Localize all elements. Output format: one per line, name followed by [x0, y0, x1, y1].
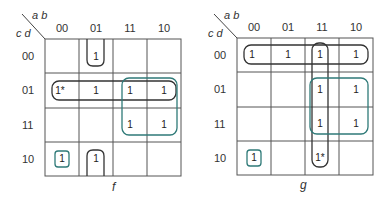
col-header: 11: [305, 21, 339, 33]
cell: 1: [271, 49, 305, 60]
cell: 1: [235, 49, 269, 60]
corner-label-cd: c d: [16, 27, 31, 39]
cell: 1: [113, 85, 147, 96]
row-header: 00: [22, 50, 34, 62]
cell: 1*: [43, 85, 77, 96]
cell: 1: [113, 119, 147, 130]
map-name-g: g: [300, 178, 307, 192]
col-header: 01: [79, 22, 113, 34]
row-header: 01: [22, 84, 34, 96]
cell: 1: [237, 152, 271, 163]
cell: 1: [79, 85, 113, 96]
corner-label-ab: a b: [32, 9, 47, 21]
cell: 1: [339, 84, 373, 95]
cell: 1: [339, 118, 373, 129]
row-header: 00: [214, 49, 226, 61]
col-header: 00: [237, 21, 271, 33]
cell: 1: [303, 49, 337, 60]
row-header: 11: [22, 119, 33, 131]
corner-label-cd: c d: [208, 27, 223, 39]
row-header: 01: [214, 83, 226, 95]
row-header: 10: [214, 152, 226, 164]
row-header: 10: [22, 153, 34, 165]
col-header: 10: [339, 21, 373, 33]
cell: 1: [79, 51, 113, 62]
cell: 1*: [303, 152, 337, 163]
col-header: 00: [45, 22, 79, 34]
kmap-g: a b c d 00 01 11 10 00 01 11 10 1 1 1 1 …: [192, 0, 387, 204]
cell: 1: [147, 85, 181, 96]
corner-label-ab: a b: [224, 9, 239, 21]
cell: 1: [79, 153, 113, 164]
cell: 1: [303, 84, 337, 95]
col-header: 11: [113, 22, 147, 34]
col-header: 01: [271, 21, 305, 33]
cell: 1: [303, 118, 337, 129]
cell: 1: [45, 153, 79, 164]
group-loops-dark: [244, 43, 368, 167]
kmap-f: a b c d 00 01 11 10 00 01 11 10 1 1* 1 1…: [0, 0, 195, 204]
map-name-f: f: [112, 180, 115, 194]
col-header: 10: [147, 22, 181, 34]
row-header: 11: [214, 118, 225, 130]
cell: 1: [339, 49, 373, 60]
cell: 1: [147, 119, 181, 130]
